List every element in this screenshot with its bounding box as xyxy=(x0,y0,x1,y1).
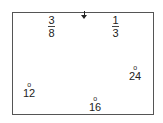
angle-24: o 24 xyxy=(129,65,141,82)
angle-value: 12 xyxy=(23,88,35,99)
angle-value: 16 xyxy=(89,102,101,113)
arrowhead-icon xyxy=(81,15,87,19)
denominator: 3 xyxy=(112,28,118,38)
denominator: 8 xyxy=(48,28,54,38)
angle-12: o 12 xyxy=(23,82,35,99)
numerator: 1 xyxy=(112,15,118,25)
fraction-1-3: 1 3 xyxy=(112,15,119,38)
fraction-3-8: 3 8 xyxy=(48,15,55,38)
angle-16: o 16 xyxy=(89,96,101,113)
numerator: 3 xyxy=(48,15,54,25)
angle-value: 24 xyxy=(129,71,141,82)
